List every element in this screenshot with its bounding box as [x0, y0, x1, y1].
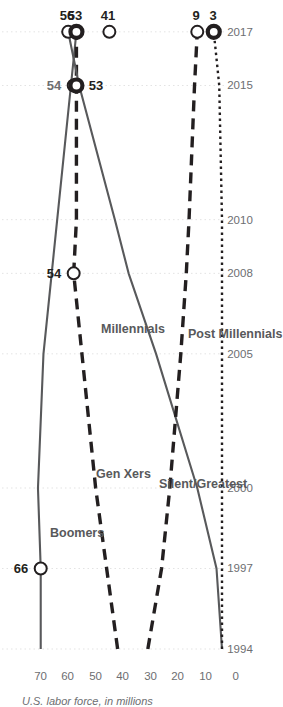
y-tick-label: 70 — [13, 670, 47, 682]
point-label-genx-2017: 53 — [68, 7, 82, 22]
x-tick-label: 1997 — [227, 563, 253, 575]
series-label-millennials: Millennials — [101, 322, 165, 336]
chart-canvas: 19941997200020052008201020152017 0102030… — [0, 0, 263, 705]
y-axis-title: U.S. labor force, in millions — [22, 695, 153, 707]
chart-svg — [0, 0, 263, 705]
marker-genx-2008 — [68, 267, 80, 279]
point-label-boomers-2015: 54 — [46, 78, 60, 93]
x-tick-label: 2010 — [227, 214, 253, 226]
marker-genx-2017 — [70, 26, 82, 38]
marker-post-millennials-2017 — [208, 26, 220, 38]
point-label-post-millennials-2017: 3 — [209, 7, 216, 22]
point-label-boomers-1997: 66 — [13, 561, 27, 576]
x-tick-label: 2005 — [227, 348, 253, 360]
x-tick-label: 1994 — [227, 643, 253, 655]
point-label-silent-2017: 9 — [193, 7, 200, 22]
marker-boomers-2017 — [103, 26, 115, 38]
series-label-silent-greatest: Silent/Greatest — [159, 477, 247, 491]
x-tick-label: 2017 — [227, 26, 253, 38]
series-label-gen-xers: Gen Xers — [96, 467, 151, 481]
x-tick-label: 2008 — [227, 267, 253, 279]
series-label-post-millennials: Post Millennials — [188, 327, 282, 341]
point-label-millennials-2015: 53 — [89, 78, 103, 93]
marker-silent-2017 — [191, 26, 203, 38]
series-line-boomers — [38, 32, 76, 649]
series-label-boomers: Boomers — [50, 526, 104, 540]
plot-area: 19941997200020052008201020152017 0102030… — [0, 0, 263, 705]
x-tick-label: 2015 — [227, 80, 253, 92]
point-label-genx-2008: 54 — [46, 266, 60, 281]
marker-millennials-2015 — [70, 80, 82, 92]
chart-rotated-wrapper: 19941997200020052008201020152017 0102030… — [0, 0, 263, 705]
series-line-gen-xers — [74, 32, 118, 649]
point-label-boomers-2017: 41 — [101, 7, 115, 22]
marker-boomers-1997 — [35, 563, 47, 575]
